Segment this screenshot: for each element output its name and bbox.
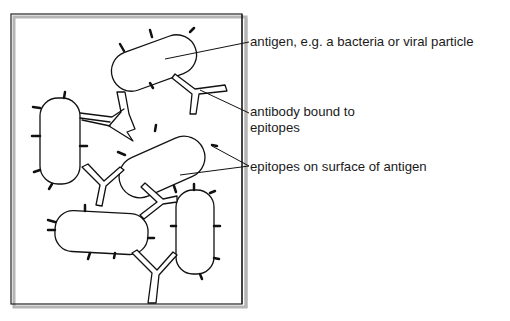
label-epitopes: epitopes on surface of antigen — [250, 159, 427, 175]
antibody-1 — [80, 92, 135, 141]
label-antibody-line2: epitopes — [250, 120, 300, 136]
antibody-5 — [132, 250, 177, 303]
antibody-2 — [172, 74, 227, 114]
antigen-left — [32, 92, 87, 189]
antibody-3 — [82, 164, 124, 206]
label-antigen: antigen, e.g. a bacteria or viral partic… — [250, 34, 474, 50]
antigen-bottom-right — [171, 184, 220, 279]
label-antibody-line1: antibody bound to — [250, 104, 355, 120]
